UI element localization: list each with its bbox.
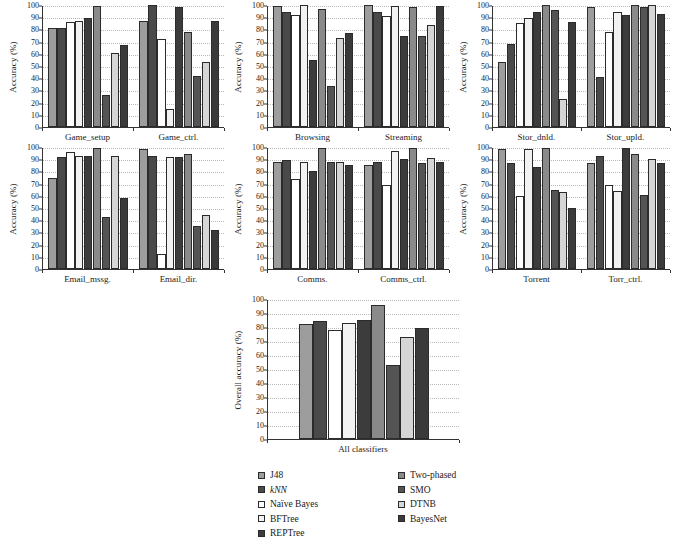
legend: J48kNNNaïve BayesBFTreeREPTreeTwo-phased… [0, 0, 676, 542]
legend-item: REPTree [258, 528, 305, 538]
legend-item: BayesNet [398, 514, 447, 524]
legend-swatch-icon [258, 515, 265, 522]
legend-label: BayesNet [410, 514, 447, 524]
legend-item: kNN [258, 485, 287, 495]
legend-swatch-icon [258, 472, 265, 479]
legend-swatch-icon [398, 501, 405, 508]
legend-item: DTNB [398, 499, 436, 509]
legend-label: Two-phased [410, 470, 456, 480]
legend-label: SMO [410, 485, 431, 495]
legend-swatch-icon [258, 486, 265, 493]
legend-swatch-icon [398, 486, 405, 493]
legend-item: Naïve Bayes [258, 499, 318, 509]
legend-item: J48 [258, 470, 283, 480]
legend-label: Naïve Bayes [270, 499, 318, 509]
legend-swatch-icon [258, 530, 265, 537]
legend-swatch-icon [258, 501, 265, 508]
legend-swatch-icon [398, 515, 405, 522]
legend-label: kNN [270, 485, 287, 495]
legend-label: REPTree [270, 528, 305, 538]
legend-swatch-icon [398, 472, 405, 479]
legend-item: Two-phased [398, 470, 456, 480]
legend-label: J48 [270, 470, 283, 480]
figure-root: Accuracy (%)0102030405060708090100Game_s… [0, 0, 676, 542]
legend-item: SMO [398, 485, 431, 495]
legend-item: BFTree [258, 514, 299, 524]
legend-label: DTNB [410, 499, 436, 509]
legend-label: BFTree [270, 514, 299, 524]
